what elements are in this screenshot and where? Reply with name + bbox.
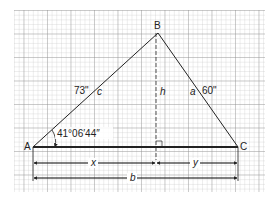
segment-x-label: x: [91, 158, 96, 168]
side-c-label: c: [97, 87, 102, 97]
triangle-diagram: A B C 73" c h a 60" 41°06′44″ x y b: [0, 0, 273, 199]
diagram-graphic: [0, 0, 273, 199]
segment-y-label: y: [193, 158, 198, 168]
vertex-B-label: B: [154, 21, 161, 31]
side-c-length: 73": [74, 86, 89, 96]
side-b-label: b: [130, 173, 136, 183]
vertex-C-label: C: [240, 142, 247, 152]
side-a-length: 60": [202, 86, 217, 96]
angle-A-value: 41°06′44″: [57, 129, 100, 139]
vertex-A-label: A: [24, 142, 31, 152]
side-a-label: a: [190, 87, 196, 97]
grid-background: [14, 10, 265, 192]
height-label: h: [160, 87, 166, 97]
